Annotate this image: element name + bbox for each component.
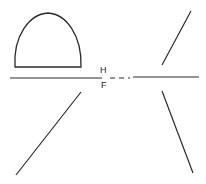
upper-right-line xyxy=(162,11,191,65)
dome-shape xyxy=(15,13,81,67)
diagram-canvas xyxy=(0,0,206,184)
label-f: F xyxy=(101,81,107,90)
label-h: H xyxy=(100,66,107,75)
lower-left-line xyxy=(16,92,81,175)
lower-right-line xyxy=(162,91,193,173)
